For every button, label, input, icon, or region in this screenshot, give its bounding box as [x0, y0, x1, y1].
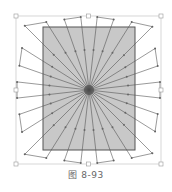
figure-caption: 图 8-93	[0, 168, 172, 181]
diagram-canvas	[0, 0, 172, 192]
